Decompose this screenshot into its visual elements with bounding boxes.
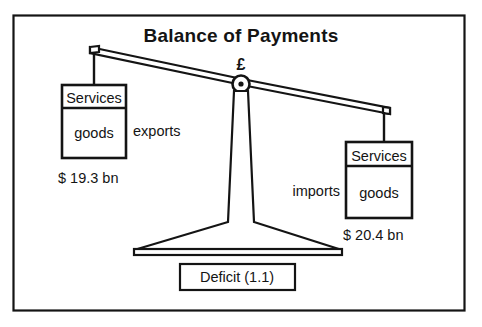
scale-diagram: Balance of Payments £ <box>0 0 482 327</box>
left-pan-services-label: Services <box>66 90 122 106</box>
figure-title: Balance of Payments <box>144 25 339 46</box>
exports-value: $ 19.3 bn <box>58 170 118 186</box>
imports-label: imports <box>292 183 340 199</box>
imports-value: $ 20.4 bn <box>343 227 403 243</box>
balance-of-payments-figure: Balance of Payments £ <box>0 0 482 327</box>
exports-label: exports <box>133 123 181 139</box>
right-pan-goods-label: goods <box>359 185 399 201</box>
deficit-caption: Deficit (1.1) <box>200 269 274 285</box>
right-pan-services-label: Services <box>351 148 407 164</box>
pound-symbol: £ <box>237 56 246 73</box>
left-pan-goods-label: goods <box>74 125 114 141</box>
